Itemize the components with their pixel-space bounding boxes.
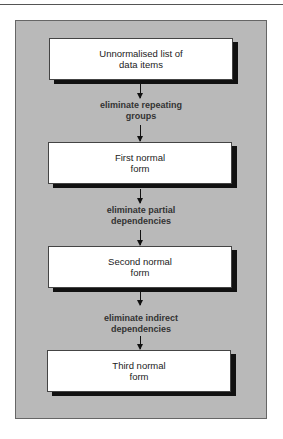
box-unnormalised: Unnormalised list of data items bbox=[49, 38, 233, 80]
box-label: Second normal form bbox=[104, 256, 176, 278]
top-rule bbox=[0, 4, 283, 5]
box-first-normal-form: First normal form bbox=[48, 142, 232, 184]
box-label: First normal form bbox=[111, 152, 169, 174]
box-second-normal-form: Second normal form bbox=[48, 246, 232, 288]
transition-label: eliminate repeating groups bbox=[15, 100, 267, 122]
transition-label: eliminate partial dependencies bbox=[15, 205, 267, 227]
arrow-icon bbox=[140, 189, 141, 203]
box-third-normal-form: Third normal form bbox=[47, 350, 231, 392]
arrow-icon bbox=[140, 125, 141, 141]
arrow-icon bbox=[140, 84, 141, 98]
arrow-icon bbox=[140, 230, 141, 245]
arrow-icon bbox=[140, 336, 141, 349]
arrow-icon bbox=[140, 292, 141, 305]
box-label: Unnormalised list of data items bbox=[90, 48, 192, 70]
transition-label: eliminate indirect dependencies bbox=[15, 313, 267, 335]
box-label: Third normal form bbox=[110, 360, 168, 382]
